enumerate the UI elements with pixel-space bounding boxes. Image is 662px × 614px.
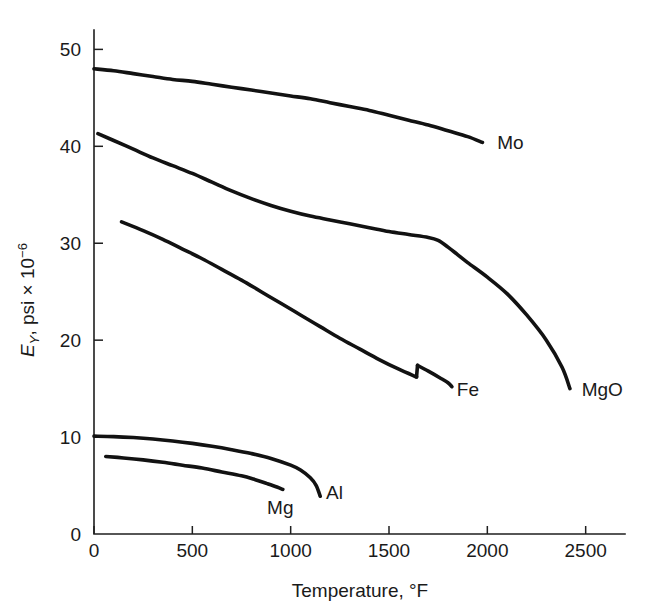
y-tick-label: 30	[60, 233, 81, 254]
axis-lines	[94, 30, 625, 534]
svg-text:EY, psi × 10−6: EY, psi × 10−6	[15, 243, 42, 357]
series-label-mg: Mg	[267, 497, 293, 518]
series-label-mo: Mo	[497, 132, 523, 153]
x-tick-label: 1500	[368, 540, 410, 561]
x-tick-label: 1000	[270, 540, 312, 561]
series-curve-al	[94, 436, 320, 496]
y-tick-label: 50	[60, 39, 81, 60]
x-axis-ticks	[94, 526, 586, 534]
series-label-fe: Fe	[457, 379, 479, 400]
series-curve-mg	[106, 456, 283, 489]
series-label-mgo: MgO	[582, 379, 623, 400]
series-curve-mgo	[98, 134, 570, 389]
series-label-al: Al	[326, 482, 343, 503]
series-curve-mo	[94, 69, 482, 143]
x-tick-label: 0	[89, 540, 100, 561]
series-curve-fe	[122, 222, 417, 377]
y-tick-label: 0	[70, 524, 81, 545]
y-axis-title: EY, psi × 10−6	[15, 243, 42, 357]
series-curve-fe	[418, 365, 452, 386]
y-tick-label: 10	[60, 427, 81, 448]
y-axis-ticks	[94, 49, 103, 437]
x-tick-label: 2000	[466, 540, 508, 561]
x-axis-title: Temperature, °F	[292, 580, 428, 601]
x-axis-tick-labels: 05001000150020002500	[89, 540, 607, 561]
y-tick-label: 40	[60, 136, 81, 157]
series-discontinuity-fe	[417, 365, 418, 377]
x-tick-label: 500	[176, 540, 208, 561]
chart-figure: 05001000150020002500 01020304050 MoMgOFe…	[0, 0, 662, 614]
y-tick-label: 20	[60, 330, 81, 351]
y-axis-tick-labels: 01020304050	[60, 39, 81, 545]
x-tick-label: 2500	[565, 540, 607, 561]
youngs-modulus-vs-temperature-chart: 05001000150020002500 01020304050 MoMgOFe…	[0, 0, 662, 614]
